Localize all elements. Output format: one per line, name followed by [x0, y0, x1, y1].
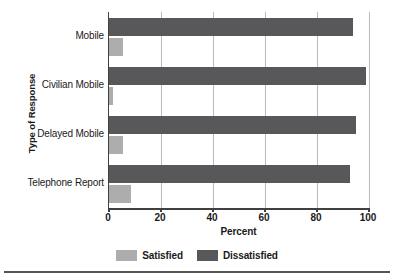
legend-label: Satisfied: [142, 250, 183, 261]
y-axis-title: Type of Response: [26, 59, 37, 169]
x-tick-label: 0: [88, 212, 128, 223]
x-tick-label: 80: [296, 212, 336, 223]
bar-dissatisfied: [109, 116, 356, 134]
plot-area: [108, 12, 369, 208]
bar-satisfied: [109, 38, 123, 56]
x-tick-label: 40: [192, 212, 232, 223]
x-tick-label: 20: [140, 212, 180, 223]
bar-dissatisfied: [109, 67, 366, 85]
x-tick-label: 100: [348, 212, 388, 223]
bottom-divider: [4, 271, 390, 273]
legend-item: Dissatisfied: [197, 250, 278, 261]
legend-swatch: [197, 250, 218, 261]
x-tick-label: 60: [244, 212, 284, 223]
bar-satisfied: [109, 87, 113, 105]
bar-chart-figure: Type of Response MobileCivilian MobileDe…: [0, 0, 394, 279]
category-label: Delayed Mobile: [0, 128, 104, 139]
legend-item: Satisfied: [116, 250, 183, 261]
chart-legend: SatisfiedDissatisfied: [0, 250, 394, 261]
x-axis-title: Percent: [108, 226, 369, 237]
legend-swatch: [116, 250, 137, 261]
bar-dissatisfied: [109, 165, 350, 183]
gridline-100: [369, 12, 370, 208]
category-label: Telephone Report: [0, 177, 104, 188]
legend-label: Dissatisfied: [223, 250, 278, 261]
bar-satisfied: [109, 136, 123, 154]
bar-dissatisfied: [109, 18, 353, 36]
bar-satisfied: [109, 185, 131, 203]
category-label: Civilian Mobile: [0, 79, 104, 90]
x-axis-line: [108, 208, 369, 210]
plot-inner: [109, 12, 369, 208]
category-label: Mobile: [0, 30, 104, 41]
